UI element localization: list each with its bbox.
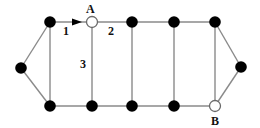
node-l — [15, 62, 27, 74]
node-t1 — [44, 16, 56, 28]
edge-b-r — [215, 67, 241, 106]
edge-l-b1 — [21, 68, 50, 106]
edge-t5-r — [215, 22, 241, 67]
edge-label-1: 1 — [63, 24, 69, 38]
graph-diagram: A B 1 2 3 — [0, 0, 260, 128]
node-b4 — [168, 100, 180, 112]
edge-1-arrowhead-icon — [72, 19, 82, 26]
node-a — [87, 17, 98, 28]
edge-label-2: 2 — [108, 24, 114, 38]
node-t3 — [126, 16, 138, 28]
edge-l-t1 — [21, 22, 50, 68]
edge-label-3: 3 — [80, 57, 86, 71]
node-b2 — [86, 100, 98, 112]
node-b3 — [126, 100, 138, 112]
node-t5 — [209, 16, 221, 28]
node-b — [210, 101, 221, 112]
node-label-b: B — [211, 114, 219, 128]
node-r — [235, 61, 247, 73]
node-label-a: A — [86, 2, 95, 16]
graph-canvas: A B 1 2 3 — [0, 0, 260, 128]
node-t4 — [168, 16, 180, 28]
edges-layer — [21, 22, 241, 106]
node-b1 — [44, 100, 56, 112]
